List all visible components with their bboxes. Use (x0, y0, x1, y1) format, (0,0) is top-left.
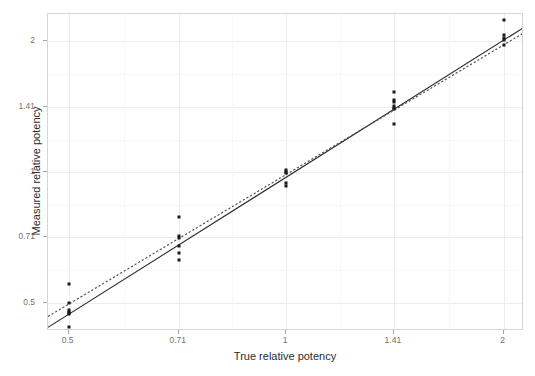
y-axis-title: Measured relative potency (30, 51, 42, 291)
y-tick-label-0.5: 0.5 (23, 297, 35, 307)
data-point (285, 181, 288, 184)
x-tick-label-1: 1 (283, 335, 288, 345)
data-point (392, 108, 395, 111)
potency-scatter-figure: 0.50.7111.412 0.50.7111.412 True relativ… (0, 0, 535, 376)
data-point (67, 301, 70, 304)
data-point (502, 19, 505, 22)
y-tick-mark-0.71 (43, 236, 47, 237)
data-point (177, 259, 180, 262)
x-tick-mark-0.71 (178, 330, 179, 334)
data-point (177, 215, 180, 218)
y-tick-mark-0.5 (43, 302, 47, 303)
data-point (502, 39, 505, 42)
data-point (392, 91, 395, 94)
x-tick-mark-1 (285, 330, 286, 334)
y-tick-label-2: 2 (30, 35, 35, 45)
data-point (502, 44, 505, 47)
x-tick-label-2: 2 (500, 335, 505, 345)
data-point (392, 100, 395, 103)
plot-panel (47, 13, 523, 330)
data-point (392, 122, 395, 125)
data-point (67, 282, 70, 285)
data-point (67, 313, 70, 316)
data-point (177, 244, 180, 247)
data-point (67, 326, 70, 329)
y-tick-mark-2 (43, 40, 47, 41)
x-tick-label-0.71: 0.71 (169, 335, 186, 345)
data-point (285, 172, 288, 175)
data-point (285, 185, 288, 188)
x-tick-mark-1.41 (393, 330, 394, 334)
x-tick-label-0.5: 0.5 (62, 335, 74, 345)
x-tick-mark-0.5 (68, 330, 69, 334)
x-axis-title: True relative potency (47, 350, 523, 362)
fitted-regression-line (48, 27, 523, 327)
data-point (177, 237, 180, 240)
x-tick-label-1.41: 1.41 (385, 335, 402, 345)
y-tick-mark-1 (43, 171, 47, 172)
y-tick-mark-1.41 (43, 106, 47, 107)
x-tick-mark-2 (503, 330, 504, 334)
data-point (177, 251, 180, 254)
